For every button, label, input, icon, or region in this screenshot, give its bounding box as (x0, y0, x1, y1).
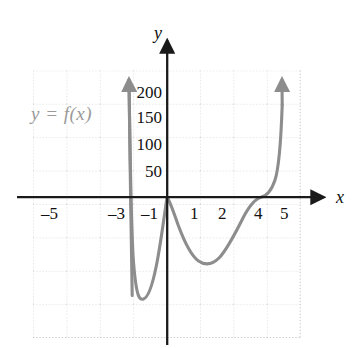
x-tick-label-5: 5 (280, 205, 289, 222)
x-tick-label-2: 2 (218, 205, 227, 222)
x-tick-label-1: 1 (190, 205, 199, 222)
x-tick-label-4: 4 (254, 205, 263, 222)
y-tick-label-100: 100 (110, 136, 162, 153)
x-tick-label-minus5: –5 (41, 205, 58, 222)
function-annotation-label: y = f(x) (31, 104, 92, 123)
x-axis-name: x (336, 188, 344, 206)
x-tick-label-minus3: –3 (108, 205, 125, 222)
x-tick-label-minus1: –1 (141, 205, 158, 222)
function-graph-figure (0, 0, 362, 348)
y-tick-label-50: 50 (110, 163, 162, 180)
y-axis-name: y (154, 24, 162, 42)
y-tick-label-200: 200 (110, 84, 162, 101)
y-tick-label-150: 150 (110, 109, 162, 126)
